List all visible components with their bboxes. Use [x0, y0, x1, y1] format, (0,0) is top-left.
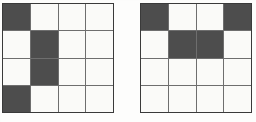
grid-row — [141, 85, 252, 112]
grid-cell-empty[interactable] — [30, 85, 58, 112]
right-grid-table — [140, 3, 252, 113]
grid-cell-empty[interactable] — [86, 58, 114, 85]
grid-row — [3, 31, 114, 58]
grid-cell-empty[interactable] — [86, 4, 114, 31]
grid-cell-empty[interactable] — [196, 85, 224, 112]
grid-cell-empty[interactable] — [224, 85, 252, 112]
grid-row — [3, 58, 114, 85]
grid-cell-filled[interactable] — [3, 85, 31, 112]
grid-cell-empty[interactable] — [196, 58, 224, 85]
figure-canvas — [0, 0, 256, 122]
grid-cell-filled[interactable] — [30, 58, 58, 85]
grid-cell-empty[interactable] — [30, 4, 58, 31]
left-grid[interactable] — [2, 3, 114, 113]
grid-cell-filled[interactable] — [196, 31, 224, 58]
grid-cell-empty[interactable] — [168, 4, 196, 31]
grid-cell-filled[interactable] — [168, 31, 196, 58]
grid-cell-empty[interactable] — [224, 31, 252, 58]
grid-row — [3, 85, 114, 112]
grid-cell-empty[interactable] — [86, 31, 114, 58]
grid-cell-empty[interactable] — [3, 58, 31, 85]
grid-cell-empty[interactable] — [58, 58, 86, 85]
grid-cell-empty[interactable] — [86, 85, 114, 112]
grid-row — [3, 4, 114, 31]
grid-cell-empty[interactable] — [168, 58, 196, 85]
grid-cell-empty[interactable] — [3, 31, 31, 58]
grid-cell-empty[interactable] — [196, 4, 224, 31]
grid-cell-filled[interactable] — [141, 4, 169, 31]
grid-cell-empty[interactable] — [168, 85, 196, 112]
left-grid-table — [2, 3, 114, 113]
grid-cell-empty[interactable] — [58, 85, 86, 112]
grid-row — [141, 58, 252, 85]
right-grid[interactable] — [140, 3, 252, 113]
grid-row — [141, 31, 252, 58]
grid-cell-filled[interactable] — [3, 4, 31, 31]
grid-cell-empty[interactable] — [58, 31, 86, 58]
grid-cell-empty[interactable] — [141, 58, 169, 85]
grid-cell-empty[interactable] — [141, 31, 169, 58]
grid-row — [141, 4, 252, 31]
grid-cell-filled[interactable] — [224, 4, 252, 31]
grid-cell-empty[interactable] — [58, 4, 86, 31]
grid-cell-empty[interactable] — [141, 85, 169, 112]
grid-cell-filled[interactable] — [30, 31, 58, 58]
grid-cell-empty[interactable] — [224, 58, 252, 85]
